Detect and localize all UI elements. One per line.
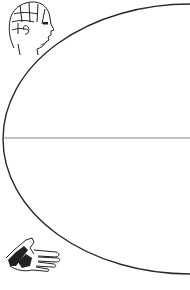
phrenology-head-icon: [4, 0, 54, 56]
pointing-hand-icon: [4, 236, 62, 276]
